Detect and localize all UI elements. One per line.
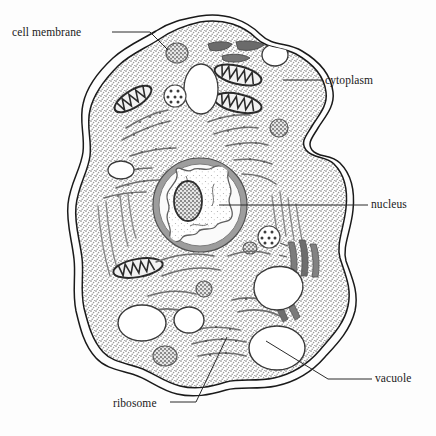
lysosome — [196, 281, 212, 297]
label-nucleus: nucleus — [371, 198, 407, 210]
lysosome — [153, 346, 177, 366]
label-cytoplasm: cytoplasm — [325, 74, 373, 86]
label-vacuole: vacuole — [375, 372, 411, 384]
lysosome — [166, 43, 188, 63]
lysosome — [270, 119, 288, 137]
vacuole — [108, 161, 134, 179]
cell-diagram-svg — [0, 0, 436, 436]
vacuole — [118, 305, 166, 341]
nucleolus — [174, 181, 202, 221]
cell-diagram-canvas: cell membrane cytoplasm nucleus vacuole … — [0, 0, 436, 436]
vacuole — [174, 307, 204, 333]
ribosome-cluster-vesicle — [164, 85, 186, 107]
vacuole — [184, 64, 218, 114]
ribosome-cluster-vesicle — [258, 226, 280, 248]
label-cell-membrane: cell membrane — [12, 26, 81, 38]
label-ribosome: ribosome — [113, 397, 157, 409]
